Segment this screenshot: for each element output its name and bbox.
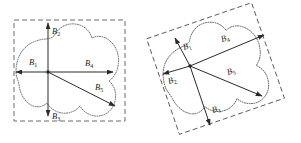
vector-bounding-box-diagram: B1 B2 B3 B4 B5 (0, 0, 301, 143)
label-B2-left: B2 (52, 26, 60, 37)
label-B1-left: B1 (29, 57, 37, 68)
left-panel: B1 B2 B3 B4 B5 (14, 20, 125, 122)
label-B2-right: B2 (166, 74, 177, 87)
figure-container: B1 B2 B3 B4 B5 (0, 0, 301, 143)
label-B5-left: B5 (95, 82, 103, 93)
label-B1-right: B1 (181, 40, 192, 53)
label-B3-left: B3 (52, 111, 60, 122)
label-B5-right: B5 (225, 65, 236, 78)
label-B4-right: B4 (219, 32, 230, 45)
blob-outline-left (16, 24, 119, 116)
vector-group-left (16, 23, 115, 116)
vector-B3-right (190, 66, 210, 125)
label-B4-left: B4 (85, 58, 93, 69)
label-B3-right: B3 (210, 103, 221, 116)
rotated-content-group (147, 3, 285, 135)
right-panel: B1 B2 B3 B4 B5 (147, 3, 285, 135)
vector-B2-right (163, 66, 190, 74)
axis-aligned-bounding-box (14, 20, 125, 121)
vector-B5-left (48, 72, 115, 106)
rotated-bounding-box (147, 3, 285, 135)
